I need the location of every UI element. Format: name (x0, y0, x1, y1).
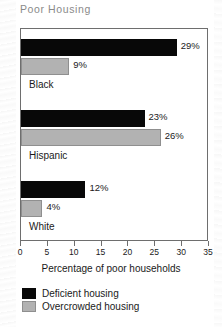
chart-bars-container: 29%9%Black23%26%Hispanic12%4%White (21, 29, 207, 240)
x-tick-30 (181, 241, 182, 246)
x-tick-label-35: 35 (203, 247, 212, 257)
x-tick-label-10: 10 (69, 247, 78, 257)
bar-row-deficient: 29% (21, 39, 207, 56)
x-tick-label-0: 0 (18, 247, 23, 257)
bar-group-white: 12%4%White (21, 181, 207, 219)
bar-value-deficient-black: 29% (181, 40, 200, 51)
legend-swatch-overcrowded (22, 301, 36, 312)
x-tick-15 (101, 241, 102, 246)
bar-overcrowded-white[interactable] (21, 200, 42, 217)
bar-group-hispanic: 23%26%Hispanic (21, 110, 207, 148)
bar-row-overcrowded: 9% (21, 58, 207, 75)
bar-row-deficient: 23% (21, 110, 207, 127)
bar-group-black: 29%9%Black (21, 39, 207, 77)
chart-plot-area: 29%9%Black23%26%Hispanic12%4%White (20, 28, 208, 241)
bar-deficient-white[interactable] (21, 181, 85, 198)
chart-legend: Deficient housingOvercrowded housing (22, 287, 139, 313)
bar-value-overcrowded-black: 9% (73, 59, 87, 70)
x-tick-label-15: 15 (96, 247, 105, 257)
x-tick-10 (74, 241, 75, 246)
bar-row-overcrowded: 4% (21, 200, 207, 217)
bar-deficient-hispanic[interactable] (21, 110, 145, 127)
bar-value-deficient-hispanic: 23% (149, 111, 168, 122)
group-label-white: White (29, 221, 55, 232)
bar-row-deficient: 12% (21, 181, 207, 198)
x-tick-label-20: 20 (123, 247, 132, 257)
bar-overcrowded-black[interactable] (21, 58, 69, 75)
x-tick-5 (47, 241, 48, 246)
legend-item-overcrowded[interactable]: Overcrowded housing (22, 300, 139, 313)
scan-texture-left (0, 0, 16, 327)
legend-label-overcrowded: Overcrowded housing (42, 301, 139, 312)
bar-value-overcrowded-white: 4% (46, 201, 60, 212)
page-title: Poor Housing (20, 3, 91, 15)
x-tick-label-25: 25 (150, 247, 159, 257)
x-tick-label-30: 30 (176, 247, 185, 257)
x-axis: 05101520253035 (20, 241, 208, 263)
x-tick-25 (154, 241, 155, 246)
group-label-hispanic: Hispanic (29, 150, 67, 161)
legend-swatch-deficient (22, 288, 36, 299)
x-tick-label-5: 5 (44, 247, 49, 257)
bar-value-overcrowded-hispanic: 26% (165, 130, 184, 141)
legend-item-deficient[interactable]: Deficient housing (22, 287, 139, 300)
bar-value-deficient-white: 12% (89, 182, 108, 193)
legend-label-deficient: Deficient housing (42, 288, 119, 299)
x-tick-35 (208, 241, 209, 246)
x-axis-title: Percentage of poor households (0, 263, 222, 274)
x-tick-0 (20, 241, 21, 246)
x-tick-20 (127, 241, 128, 246)
scan-texture-right (214, 0, 222, 327)
bar-row-overcrowded: 26% (21, 129, 207, 146)
group-label-black: Black (29, 79, 53, 90)
bar-overcrowded-hispanic[interactable] (21, 129, 161, 146)
bar-deficient-black[interactable] (21, 39, 177, 56)
